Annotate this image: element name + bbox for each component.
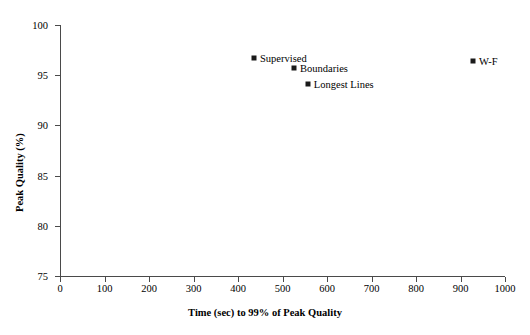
y-tick-label: 90 [0,120,48,131]
x-tick-label: 700 [364,283,380,294]
x-tick-label: 800 [408,283,424,294]
data-point-label: W-F [479,56,498,67]
data-point [292,66,297,71]
x-tick-label: 200 [141,283,157,294]
x-tick-label: 600 [319,283,335,294]
y-axis-line [60,25,61,276]
y-tick [55,25,60,26]
y-tick [55,176,60,177]
y-tick [55,75,60,76]
scatter-plot: 01002003004005006007008009001000 7580859… [0,0,530,335]
y-tick-label: 95 [0,70,48,81]
x-tick [416,277,417,282]
y-axis-title: Peak Quality (%) [14,133,25,212]
y-tick [55,276,60,277]
x-tick [372,277,373,282]
x-tick [505,277,506,282]
x-tick [149,277,150,282]
x-tick-label: 0 [57,283,62,294]
data-point-label: Longest Lines [314,79,374,90]
x-tick [327,277,328,282]
x-tick [60,277,61,282]
x-tick [105,277,106,282]
x-tick-label: 400 [230,283,246,294]
x-tick-label: 100 [97,283,113,294]
x-tick-label: 900 [453,283,469,294]
x-axis-title: Time (sec) to 99% of Peak Quality [0,307,530,318]
x-tick [461,277,462,282]
x-tick [238,277,239,282]
x-tick [283,277,284,282]
x-tick-label: 1000 [495,283,516,294]
data-point [252,56,257,61]
x-tick-label: 300 [186,283,202,294]
data-point-label: Boundaries [300,63,348,74]
y-tick-label: 75 [0,271,48,282]
y-tick [55,226,60,227]
data-point [305,82,310,87]
x-tick [194,277,195,282]
x-tick-label: 500 [275,283,291,294]
data-point [470,59,475,64]
y-tick-label: 100 [0,20,48,31]
y-tick-label: 80 [0,220,48,231]
y-tick [55,125,60,126]
